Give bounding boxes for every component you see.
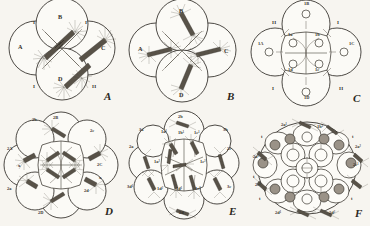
panel-f-cell-2d1: 2d¹ <box>275 211 281 215</box>
panel-e-cell-2b: 2b <box>178 115 183 119</box>
panel-e-cell-2a: 2a <box>129 145 133 149</box>
panel-e: 2b 3a 3b 2a 2c 1a¹ 1b¹ 1c¹ 1a² 1c² 3d¹ 3… <box>123 113 245 226</box>
panel-e-cell-1c1: 1c¹ <box>194 131 199 135</box>
panel-a-cell-a: A <box>18 44 22 50</box>
panel-e-cell-1a2: 1a² <box>154 160 160 164</box>
panel-c-polar-i-2: I <box>272 86 274 91</box>
panel-e-cell-3a: 3a <box>139 128 143 132</box>
panel-f-cell-2d2: 2d² <box>329 211 335 215</box>
figure-plate: A B C D I I I II A <box>0 0 370 226</box>
panel-c-cell-1a: 1a <box>288 33 292 37</box>
panel-f-cell-2a2: 2a² <box>355 145 361 149</box>
panel-c-polar-ii-2: II <box>339 86 343 91</box>
panel-d-letter: D <box>105 205 113 217</box>
panel-e-cell-2c: 2c <box>227 147 231 151</box>
panel-e-cell-3d1: 3d¹ <box>127 185 133 189</box>
panel-c-cell-1d: 1d <box>288 68 293 72</box>
panel-d-cell-2C: 2C <box>97 163 102 167</box>
panel-d-cell-2d: 2d <box>84 189 89 193</box>
panel-e-cell-1a1: 1a¹ <box>161 130 167 134</box>
panel-f-cell-1b1: 1b¹ <box>317 125 323 129</box>
panel-c-cell-1c: 1c <box>315 68 319 72</box>
panel-f-trochoblast-t3: t <box>253 175 254 179</box>
panel-d-mark-x-2: x <box>99 175 102 180</box>
panel-e-cell-2d: 2d <box>179 211 184 215</box>
panel-f-trochoblast-t4: t <box>259 197 260 201</box>
panel-a-polar-ii-1: II <box>92 84 96 89</box>
panel-f-cell-2a1b: 2a¹ <box>253 155 259 159</box>
panel-e-letter: E <box>229 205 237 217</box>
panel-b-cell-c: C <box>224 48 228 54</box>
panel-f-cell-2c2: 2c² <box>255 183 260 187</box>
panel-e-cell-3c: 3c <box>227 185 231 189</box>
panel-d-mark-x-1: x <box>18 163 21 168</box>
panel-c-cell-1A: 1A <box>258 42 263 46</box>
panel-f-trochoblast-t1: t <box>261 135 262 139</box>
panel-d: 2b 2B 2c 2C 2A 2a 2d 2D x x D <box>0 113 123 226</box>
panel-b: A B C D B <box>123 0 245 113</box>
panel-c-polar-i-1: I <box>337 20 339 25</box>
panel-f-cell-2c1: 2c¹ <box>353 163 358 167</box>
panel-f-drawing <box>245 113 370 226</box>
panel-a-cell-d: D <box>58 76 62 82</box>
panel-a: A B C D I I I II A <box>0 0 123 113</box>
panel-c-letter: C <box>353 92 361 104</box>
panel-d-cell-2a: 2a <box>7 187 11 191</box>
panel-a-polar-i-1: I <box>33 20 35 25</box>
panel-f: t 2a¹ 1b¹ t 2a² 2a¹ 2c¹ t 2c² t t 2d¹ 2d… <box>245 113 370 226</box>
panel-d-cell-2c: 2c <box>90 129 94 133</box>
panel-a-polar-i-2: I <box>85 20 87 25</box>
panel-b-cell-d: D <box>179 92 183 98</box>
panel-b-letter: B <box>227 90 235 102</box>
panel-a-cell-b: B <box>58 14 62 20</box>
panel-a-polar-i-3: I <box>33 84 35 89</box>
panel-e-cell-1d2: 1d² <box>157 187 163 191</box>
panel-c-cell-1D: 1D <box>304 96 309 100</box>
panel-e-cell-1b1: 1b¹ <box>178 131 184 135</box>
panel-e-cell-1c2: 1c² <box>200 160 205 164</box>
panel-d-cell-2b: 2b <box>32 118 37 122</box>
panel-c-cell-1C: 1C <box>349 42 354 46</box>
panel-f-trochoblast-t5: t <box>351 197 352 201</box>
panel-f-trochoblast-t2: t <box>352 135 353 139</box>
panel-e-cell-3b: 3b <box>223 128 228 132</box>
panel-d-cell-2D: 2D <box>38 211 43 215</box>
panel-a-cell-c: C <box>101 45 105 51</box>
panel-b-cell-b: B <box>179 8 183 14</box>
panel-c-cell-1B: 1B <box>304 2 309 6</box>
panel-b-cell-a: A <box>138 46 142 52</box>
panel-f-letter: F <box>355 207 363 219</box>
panel-d-cell-2B: 2B <box>53 116 58 120</box>
panel-f-cell-2a1: 2a¹ <box>281 123 287 127</box>
panel-d-cell-2A: 2A <box>7 147 12 151</box>
panel-c-polar-ii-1: II <box>272 20 276 25</box>
panel-c-cell-1b: 1b <box>315 33 320 37</box>
panel-a-letter: A <box>104 90 112 102</box>
panel-e-cell-1d1: 1d¹ <box>176 187 182 191</box>
panel-e-cell-1c2b: 1c² <box>195 187 200 191</box>
panel-c: 1B 1A 1C 1D 1a 1b 1c 1d II I I II C <box>245 0 370 113</box>
